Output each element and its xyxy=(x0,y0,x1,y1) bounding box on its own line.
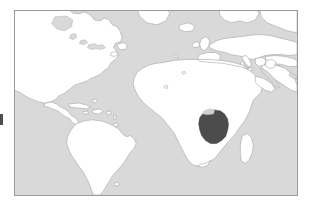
world-map-svg xyxy=(15,11,297,195)
edge-artifact-mark xyxy=(0,114,3,125)
puerto-rico-island xyxy=(106,111,111,115)
falkland-islands xyxy=(114,182,119,186)
map-frame xyxy=(14,10,298,196)
bahamas-islands xyxy=(92,99,97,103)
locator-map-figure xyxy=(0,0,314,206)
